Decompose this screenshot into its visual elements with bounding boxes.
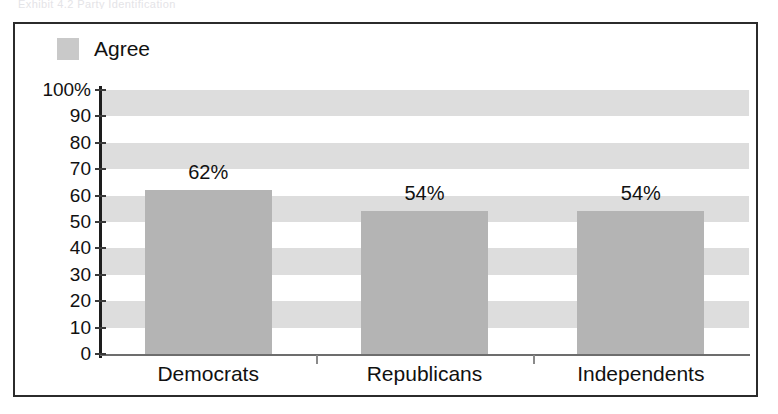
y-axis-tick-label: 30 (17, 265, 91, 284)
y-axis-labels: 0102030405060708090100% (15, 24, 91, 399)
y-axis-tick (95, 221, 106, 223)
y-axis-tick-label: 0 (17, 344, 91, 363)
y-axis-tick (95, 247, 106, 249)
x-axis-label-independents: Independents (533, 362, 749, 386)
bar-republicans (361, 211, 488, 354)
bar-value-label-republicans: 54% (365, 183, 485, 203)
legend-label-agree: Agree (94, 38, 150, 60)
y-axis-tick-label: 20 (17, 291, 91, 310)
x-axis-line (100, 354, 750, 356)
y-axis-tick-label: 50 (17, 212, 91, 231)
y-axis-tick (95, 168, 106, 170)
y-axis-tick (95, 327, 106, 329)
y-axis-tick-label: 60 (17, 186, 91, 205)
bar-democrats (145, 190, 272, 354)
y-axis-tick (95, 115, 106, 117)
y-axis-tick (95, 142, 106, 144)
scan-artifact-top-text: Exhibit 4.2 Party Identification (18, 0, 438, 9)
y-axis-tick (95, 353, 106, 355)
y-axis-tick (95, 195, 106, 197)
x-axis-label-democrats: Democrats (100, 362, 316, 386)
y-axis-tick-label: 80 (17, 133, 91, 152)
y-axis-tick-label: 10 (17, 318, 91, 337)
bar-value-label-independents: 54% (581, 183, 701, 203)
x-axis-tick (533, 355, 535, 364)
y-axis-tick (95, 89, 106, 91)
bar-value-label-democrats: 62% (148, 162, 268, 182)
x-axis-label-republicans: Republicans (316, 362, 532, 386)
grid-band (100, 90, 749, 116)
y-axis-tick-label: 40 (17, 238, 91, 257)
y-axis-tick (95, 300, 106, 302)
x-axis-tick (316, 355, 318, 364)
bar-independents (577, 211, 704, 354)
chart-figure-frame: Agree 0102030405060708090100% 62%Democra… (13, 22, 758, 397)
y-axis-tick-label: 90 (17, 106, 91, 125)
y-axis-tick-label: 100% (17, 80, 91, 99)
y-axis-tick (95, 274, 106, 276)
y-axis-tick-label: 70 (17, 159, 91, 178)
